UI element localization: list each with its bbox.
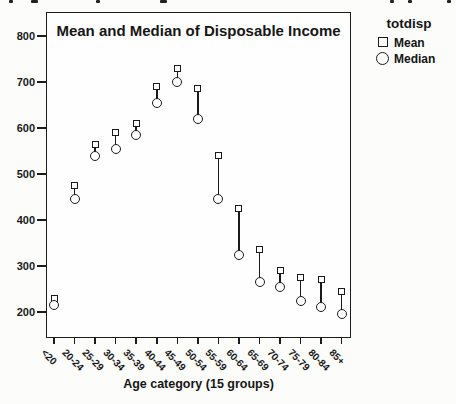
- median-point-marker: [296, 296, 306, 306]
- x-axis-tick-label: 20-24: [60, 347, 86, 373]
- x-axis-tick: [320, 338, 322, 344]
- plot-area-frame: [46, 12, 351, 338]
- y-axis-tick-label: 200: [1, 306, 35, 318]
- mean-point-marker: [318, 276, 325, 283]
- x-axis-tick: [94, 338, 96, 344]
- median-point-marker: [234, 250, 244, 260]
- x-axis-tick: [74, 338, 76, 344]
- y-axis-tick: [37, 35, 46, 37]
- x-axis-tick-label: 35-39: [121, 347, 147, 373]
- x-axis-tick-label: 75-79: [286, 347, 312, 373]
- x-axis-tick: [300, 338, 302, 344]
- median-point-marker: [70, 194, 80, 204]
- y-axis-tick: [37, 127, 46, 129]
- x-axis-tick: [177, 338, 179, 344]
- cropped-text-fragment: [408, 0, 412, 3]
- x-axis-tick-label: 45-49: [163, 347, 189, 373]
- y-axis-tick: [37, 219, 46, 221]
- mean-point-marker: [112, 129, 119, 136]
- x-axis-tick-label: 80-84: [306, 347, 332, 373]
- mean-median-drop-line: [218, 156, 220, 200]
- x-axis-tick: [115, 338, 117, 344]
- mean-point-marker: [153, 83, 160, 90]
- mean-point-marker: [174, 65, 181, 72]
- legend-item-median: Median: [376, 51, 456, 66]
- legend-item-label: Median: [394, 52, 435, 66]
- cropped-text-fragment: [160, 0, 167, 3]
- mean-point-marker: [133, 120, 140, 127]
- x-axis-tick-label: 65-69: [245, 347, 271, 373]
- mean-point-marker: [338, 288, 345, 295]
- x-axis-tick: [259, 338, 261, 344]
- median-point-marker: [90, 151, 100, 161]
- x-axis-tick: [341, 338, 343, 344]
- cropped-text-fragment: [31, 0, 38, 3]
- cropped-text-fragment: [390, 0, 394, 3]
- legend-square-icon: [378, 37, 388, 47]
- y-axis-tick-label: 700: [1, 76, 35, 88]
- x-axis-tick-label: 50-54: [183, 347, 209, 373]
- x-axis-tick-label: <20: [39, 347, 59, 367]
- cropped-text-fragment: [9, 0, 13, 3]
- y-axis-tick: [37, 311, 46, 313]
- mean-point-marker: [256, 246, 263, 253]
- mean-point-marker: [235, 205, 242, 212]
- mean-point-marker: [194, 85, 201, 92]
- x-axis-tick-label: 55-59: [204, 347, 230, 373]
- x-axis-tick-label: 25-29: [80, 347, 106, 373]
- x-axis-tick: [238, 338, 240, 344]
- median-point-marker: [337, 309, 347, 319]
- legend-circle-icon: [376, 52, 389, 65]
- median-point-marker: [111, 144, 121, 154]
- y-axis-tick: [37, 265, 46, 267]
- median-point-marker: [275, 282, 285, 292]
- y-axis-tick-label: 800: [1, 30, 35, 42]
- x-axis-title: Age category (15 groups): [46, 377, 351, 391]
- x-axis-tick: [53, 338, 55, 344]
- y-axis-tick-label: 400: [1, 214, 35, 226]
- median-point-marker: [193, 114, 203, 124]
- chart-title: Mean and Median of Disposable Income: [46, 22, 351, 39]
- mean-median-drop-line: [238, 209, 240, 255]
- y-axis-tick-label: 600: [1, 122, 35, 134]
- cropped-text-fragment: [447, 0, 451, 3]
- x-axis-tick-label: 30-34: [101, 347, 127, 373]
- legend-title: totdisp: [362, 16, 456, 31]
- x-axis-tick: [279, 338, 281, 344]
- legend-item-mean: Mean: [376, 35, 456, 50]
- cropped-text-fragment: [96, 0, 100, 3]
- legend-item-label: Mean: [394, 36, 425, 50]
- y-axis-tick: [37, 81, 46, 83]
- x-axis-tick-label: 60-64: [224, 347, 250, 373]
- x-axis-tick: [135, 338, 137, 344]
- mean-point-marker: [297, 274, 304, 281]
- x-axis-tick: [156, 338, 158, 344]
- median-point-marker: [152, 98, 162, 108]
- y-axis-tick-label: 300: [1, 260, 35, 272]
- y-axis-tick: [37, 173, 46, 175]
- x-axis-tick: [218, 338, 220, 344]
- mean-point-marker: [277, 267, 284, 274]
- median-point-marker: [255, 277, 265, 287]
- cropped-caption-fragments: [0, 0, 456, 4]
- x-axis-tick: [197, 338, 199, 344]
- mean-point-marker: [71, 182, 78, 189]
- y-axis-tick-label: 500: [1, 168, 35, 180]
- mean-point-marker: [92, 141, 99, 148]
- mean-point-marker: [215, 152, 222, 159]
- x-axis-tick-label: 70-74: [265, 347, 291, 373]
- x-axis-tick-label: 40-44: [142, 347, 168, 373]
